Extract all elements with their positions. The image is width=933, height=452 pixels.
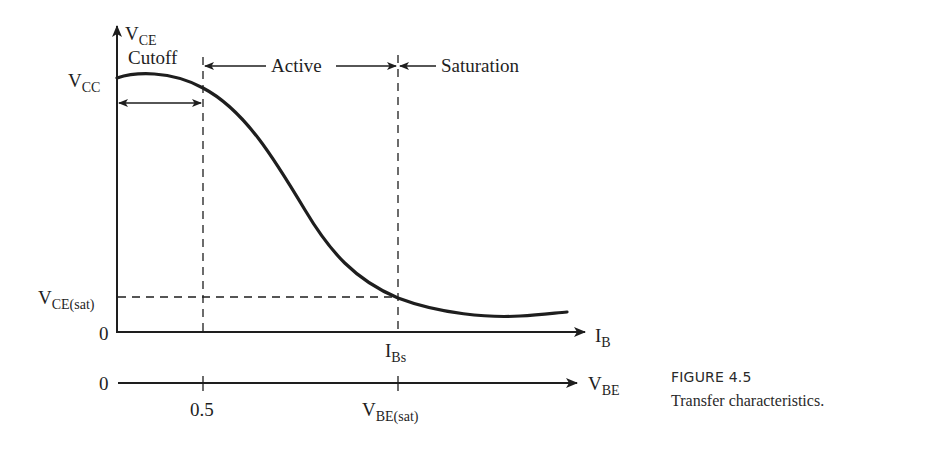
figure-caption: Transfer characteristics. xyxy=(671,392,824,410)
vbe-axis-label: VBE xyxy=(588,373,620,398)
y-origin-label: 0 xyxy=(99,323,109,344)
y-axis-label: VCE xyxy=(125,23,157,48)
region-label-saturation: Saturation xyxy=(441,55,520,76)
vce-sat-label: VCE(sat) xyxy=(38,287,95,313)
ibs-label: IBs xyxy=(385,340,406,365)
vbe-origin-label: 0 xyxy=(99,373,109,394)
region-label-cutoff: Cutoff xyxy=(128,47,178,68)
ib-axis-label: IB xyxy=(595,325,611,350)
vbe-sat-label: VBE(sat) xyxy=(362,399,419,425)
figure-number: FIGURE 4.5 xyxy=(671,369,752,385)
vbe-tick-label-0-5: 0.5 xyxy=(190,399,214,420)
vcc-label: VCC xyxy=(68,70,100,95)
transfer-characteristics-figure: VCE Cutoff Active Saturation VCC VCE(sat… xyxy=(0,0,933,452)
transfer-curve xyxy=(117,74,567,317)
region-label-active: Active xyxy=(271,55,322,76)
